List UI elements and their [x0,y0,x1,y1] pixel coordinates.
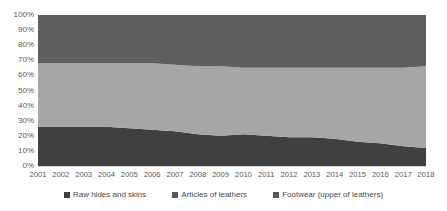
legend-swatch-icon [172,192,178,198]
x-axis-tick-label: 2013 [303,170,320,180]
legend-label: Footwear (upper of leathers) [282,190,383,200]
x-axis-tick-label: 2015 [349,170,366,180]
y-axis-tick-label: 70% [0,56,34,64]
x-axis-tick-label: 2011 [258,170,274,180]
legend-item[interactable]: Footwear (upper of leathers) [273,190,383,200]
legend-swatch-icon [273,192,279,198]
x-axis-line [38,166,426,167]
area-band-footwear-upper-of-leathers [38,15,426,68]
x-axis-tick-label: 2006 [144,170,161,180]
y-axis-tick-label: 20% [0,132,34,140]
legend-label: Raw hides and skins [73,190,146,200]
x-axis-tick-label: 2005 [121,170,138,180]
chart-legend: Raw hides and skinsArticles of leathersF… [0,188,447,202]
y-axis-tick-label: 80% [0,41,34,49]
x-axis-tick-label: 2008 [189,170,206,180]
plot-area [38,15,426,166]
x-axis-tick-label: 2016 [372,170,389,180]
legend-swatch-icon [64,192,70,198]
y-axis-tick-label: 100% [0,11,34,19]
x-axis: 2001200220032004200520062007200820092010… [38,170,426,182]
x-axis-tick-label: 2003 [75,170,92,180]
x-axis-tick-label: 2010 [235,170,252,180]
y-axis-tick-label: 30% [0,117,34,125]
x-axis-tick-label: 2007 [166,170,183,180]
y-axis-tick-label: 0% [0,162,34,170]
y-axis-tick-label: 10% [0,147,34,155]
y-axis-tick-label: 40% [0,102,34,110]
y-axis-tick-label: 90% [0,26,34,34]
legend-item[interactable]: Raw hides and skins [64,190,146,200]
x-axis-tick-label: 2009 [212,170,229,180]
legend-label: Articles of leathers [181,190,247,200]
x-axis-tick-label: 2018 [418,170,435,180]
y-axis-tick-label: 50% [0,87,34,95]
x-axis-tick-label: 2017 [395,170,412,180]
stacked-area-series-group [38,15,426,166]
x-axis-tick-label: 2014 [326,170,343,180]
x-axis-tick-label: 2012 [281,170,298,180]
y-axis-tick-label: 60% [0,71,34,79]
legend-item[interactable]: Articles of leathers [172,190,247,200]
x-axis-tick-label: 2001 [30,170,47,180]
x-axis-tick-label: 2004 [98,170,115,180]
x-axis-tick-label: 2002 [52,170,69,180]
chart-container: 0%10%20%30%40%50%60%70%80%90%100% 200120… [0,0,447,211]
y-axis: 0%10%20%30%40%50%60%70%80%90%100% [0,15,34,166]
